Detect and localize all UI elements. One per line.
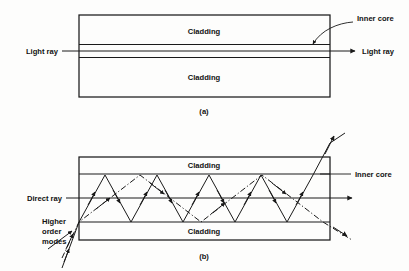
- cladding-top-label-a: Cladding: [188, 27, 221, 36]
- panel-a: Cladding Cladding Light ray Light ray In…: [26, 14, 395, 116]
- panel-a-caption: (a): [199, 107, 209, 116]
- figure-root: Cladding Cladding Light ray Light ray In…: [0, 0, 409, 271]
- light-ray-out-label-a: Light ray: [362, 47, 395, 56]
- cladding-top-label-b: Cladding: [188, 161, 221, 170]
- inner-core-label-a: Inner core: [357, 14, 394, 23]
- panel-b-caption: (b): [199, 252, 209, 261]
- cladding-bottom-label-a: Cladding: [188, 73, 221, 82]
- higher-order-modes-label-line2: order: [42, 227, 61, 236]
- panel-b: Cladding Cladding Direct ray: [27, 133, 392, 268]
- higher-order-modes-label-line1: Higher: [42, 217, 66, 226]
- higher-order-modes-label-line3: modes: [42, 237, 66, 246]
- light-ray-in-label-a: Light ray: [26, 47, 59, 56]
- cladding-bottom-label-b: Cladding: [188, 227, 221, 236]
- inner-core-leader-a: [313, 22, 353, 44]
- higher-order-mode-shallow-path: [62, 175, 352, 258]
- direct-ray-label-b: Direct ray: [27, 194, 63, 203]
- inner-core-label-b: Inner core: [355, 170, 392, 179]
- higher-order-mode-steep-path: [62, 133, 345, 268]
- higher-order-mode-shallow-arrows: [66, 183, 347, 249]
- fiber-optic-diagram: Cladding Cladding Light ray Light ray In…: [0, 0, 409, 271]
